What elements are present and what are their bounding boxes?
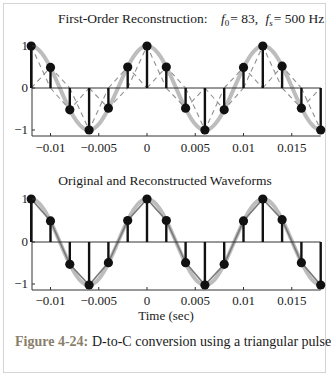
y-tick-label: 0 [22,234,29,249]
stem-marker [65,105,74,114]
stem-marker [104,258,113,267]
y-tick-label: 1 [22,191,29,206]
stem-marker [200,280,209,289]
plot2-title: Original and Reconstructed Waveforms [58,173,271,188]
y-tick-label: 0 [22,80,29,95]
x-tick-label: 0 [144,140,151,155]
stem-marker [162,216,171,225]
stem-marker [85,125,94,134]
x-tick-label: −0.005 [80,293,117,308]
x-tick-label: −0.01 [35,140,65,155]
x-tick-label: 0.005 [181,293,210,308]
caption-text: D-to-C conversion using a triangular pul… [92,334,331,349]
x-tick-label: −0.005 [80,140,117,155]
stem-marker [297,104,306,113]
stem-marker [200,125,209,134]
x-axis-label: Time (sec) [138,308,194,323]
stem-marker [142,194,151,203]
plot-original-and-reconstructed: Original and Reconstructed Waveforms −0.… [14,173,325,323]
stem-marker [123,216,132,225]
stem-marker [278,62,287,71]
stem-marker [278,215,287,224]
stem-marker [220,105,229,114]
caption-label: Figure 4-24: [15,334,88,349]
stem-marker [46,216,55,225]
y-tick-label: 1 [22,38,29,53]
x-tick-label: 0.01 [232,140,255,155]
stem-marker [297,258,306,267]
x-tick-label: 0.01 [232,293,255,308]
stem-marker [46,63,55,72]
stem-marker [123,62,132,71]
x-tick-label: 0 [144,293,151,308]
stem-marker [181,104,190,113]
stem-marker [258,194,267,203]
stem-marker [316,125,325,134]
x-tick-label: 0.005 [181,140,210,155]
stem-marker [239,216,248,225]
stem-marker [85,280,94,289]
x-tick-label: 0.015 [277,140,306,155]
stem-marker [239,63,248,72]
stem-marker [104,104,113,113]
x-tick-label: −0.01 [35,293,65,308]
plot-first-order-reconstruction: First-Order Reconstruction: f0= 83, fs= … [14,11,325,155]
stem-marker [316,280,325,289]
y-tick-label: −1 [14,122,28,137]
stem-marker [65,260,74,269]
x-tick-label: 0.015 [277,293,306,308]
stem-marker [181,258,190,267]
stem-marker [220,260,229,269]
stem-marker [258,41,267,50]
figure-caption: Figure 4-24: D-to-C conversion using a t… [15,334,331,350]
y-tick-label: −1 [14,276,28,291]
plot1-title: First-Order Reconstruction: f0= 83, fs= … [58,11,324,28]
stem-marker [142,41,151,50]
stem-marker [162,62,171,71]
